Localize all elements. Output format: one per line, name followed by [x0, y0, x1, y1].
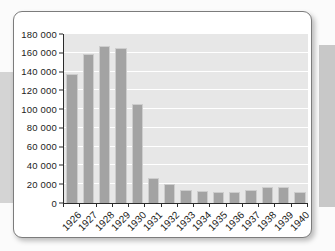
bar-1931 [148, 178, 159, 203]
bar-1932 [164, 184, 175, 203]
bar-1928 [99, 46, 110, 203]
y-axis-labels: 020 00040 00060 00080 000100 000120 0001… [14, 34, 57, 203]
x-axis-tick [242, 203, 243, 207]
bar-1926 [66, 74, 77, 203]
x-axis-tick [274, 203, 275, 207]
x-axis-tick [291, 203, 292, 207]
x-axis-tick [161, 203, 162, 207]
x-axis-tick [79, 203, 80, 207]
x-axis-tick [193, 203, 194, 207]
x-axis-tick [258, 203, 259, 207]
bar-1933 [180, 190, 191, 203]
plot-area [63, 34, 308, 204]
y-axis-tick-label: 0 [52, 198, 57, 208]
bar-chart: 020 00040 00060 00080 000100 000120 0001… [14, 12, 311, 237]
page-left-gray-band [0, 72, 13, 203]
bar-1937 [245, 190, 256, 203]
x-axis-tick [63, 203, 64, 207]
y-axis-tick-label: 120 000 [21, 86, 57, 96]
page-right-gray-band [319, 45, 335, 207]
y-axis-tick-label: 40 000 [27, 161, 57, 171]
x-axis-tick [112, 203, 113, 207]
y-axis-tick-label: 60 000 [27, 142, 57, 152]
bar-1935 [213, 192, 224, 203]
y-axis-tick-label: 20 000 [27, 179, 57, 189]
x-axis-tick [96, 203, 97, 207]
x-axis-tick [307, 203, 308, 207]
x-axis-tick [128, 203, 129, 207]
bar-1929 [115, 48, 126, 203]
x-axis-tick [209, 203, 210, 207]
bar-1927 [83, 54, 94, 203]
x-axis-tick [177, 203, 178, 207]
x-axis-ticks [63, 203, 307, 207]
gridline [64, 33, 308, 34]
chart-card: 020 00040 00060 00080 000100 000120 0001… [13, 11, 312, 238]
bar-1938 [262, 187, 273, 203]
x-axis-tick [144, 203, 145, 207]
bar-1934 [197, 191, 208, 203]
bar-1930 [132, 104, 143, 203]
x-axis-labels: 1926192719281929193019311932193319341935… [63, 210, 307, 250]
bar-1939 [278, 187, 289, 203]
y-axis-tick-label: 160 000 [21, 48, 57, 58]
y-axis-tick-label: 100 000 [21, 104, 57, 114]
y-axis-tick-label: 140 000 [21, 67, 57, 77]
y-axis-tick-label: 80 000 [27, 123, 57, 133]
y-axis-tick-label: 180 000 [21, 29, 57, 39]
screenshot-root: 020 00040 00060 00080 000100 000120 0001… [0, 0, 335, 251]
bar-1936 [229, 192, 240, 203]
x-axis-tick [226, 203, 227, 207]
bar-1940 [294, 192, 305, 203]
